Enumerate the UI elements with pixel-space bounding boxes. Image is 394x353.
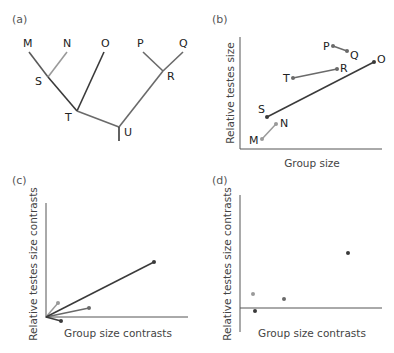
point-label-n: N xyxy=(280,117,288,130)
node-label-s: S xyxy=(35,75,42,88)
figure: (a) M N O P Q S T U R (b) Group size Rel… xyxy=(0,0,394,353)
branch-t xyxy=(77,111,119,127)
panel-b-chart: (b) Group size Relative testes size M N … xyxy=(212,13,386,169)
point-label-p: P xyxy=(323,40,330,53)
branch-o xyxy=(77,52,104,111)
x-axis-label: Group size contrasts xyxy=(64,327,172,339)
y-axis-label: Relative testes size xyxy=(224,42,236,143)
point-label-s: S xyxy=(258,103,265,116)
point-large xyxy=(152,260,156,264)
point-t xyxy=(291,76,295,80)
point-gray xyxy=(251,292,255,296)
vector-large xyxy=(46,262,154,317)
panel-a-tree: (a) M N O P Q S T U R xyxy=(12,13,188,141)
segment-s-o xyxy=(267,62,374,117)
point-label-o: O xyxy=(377,53,386,66)
tip-label-n: N xyxy=(63,37,71,50)
panel-d-chart: (d) Group size contrasts Relative testes… xyxy=(212,174,382,341)
y-axis-label: Relative testes size contrasts xyxy=(27,187,39,341)
point-m xyxy=(260,137,264,141)
point-gray xyxy=(56,301,60,305)
x-axis-label: Group size xyxy=(284,157,340,169)
point-low xyxy=(59,319,63,323)
branch-n xyxy=(48,52,67,77)
point-label-r: R xyxy=(340,62,348,75)
branch-p xyxy=(143,52,163,71)
point-mid xyxy=(87,306,91,310)
point-large xyxy=(346,251,350,255)
node-label-t: T xyxy=(64,111,72,124)
branch-m xyxy=(29,52,48,77)
point-q xyxy=(345,49,349,53)
tip-label-o: O xyxy=(101,37,110,50)
tip-label-m: M xyxy=(23,37,33,50)
point-label-m: M xyxy=(249,134,259,147)
panel-a-label: (a) xyxy=(12,13,27,26)
panel-b-label: (b) xyxy=(212,13,228,26)
point-n xyxy=(274,122,278,126)
branch-r xyxy=(119,71,163,127)
point-r xyxy=(335,67,339,71)
segment-t-r xyxy=(293,69,337,78)
tip-label-q: Q xyxy=(179,37,188,50)
branch-q xyxy=(163,52,183,71)
point-label-t: T xyxy=(282,72,290,85)
point-low xyxy=(253,309,257,313)
point-p xyxy=(331,44,335,48)
branch-s xyxy=(48,77,77,111)
panel-c-chart: (c) Group size contrasts Relative testes… xyxy=(12,174,188,341)
x-axis-label: Group size contrasts xyxy=(258,327,366,339)
y-axis-label: Relative testes size contrasts xyxy=(221,187,233,341)
panel-d-label: (d) xyxy=(212,174,228,187)
panel-c-label: (c) xyxy=(12,174,27,187)
node-label-u: U xyxy=(124,126,132,139)
segment-m-n xyxy=(262,124,276,139)
point-label-q: Q xyxy=(350,49,359,62)
node-label-r: R xyxy=(167,70,175,83)
segment-p-q xyxy=(333,46,347,51)
point-o xyxy=(372,60,376,64)
point-mid xyxy=(282,297,286,301)
tip-label-p: P xyxy=(137,37,144,50)
point-s xyxy=(265,115,269,119)
vector-low xyxy=(46,317,61,321)
